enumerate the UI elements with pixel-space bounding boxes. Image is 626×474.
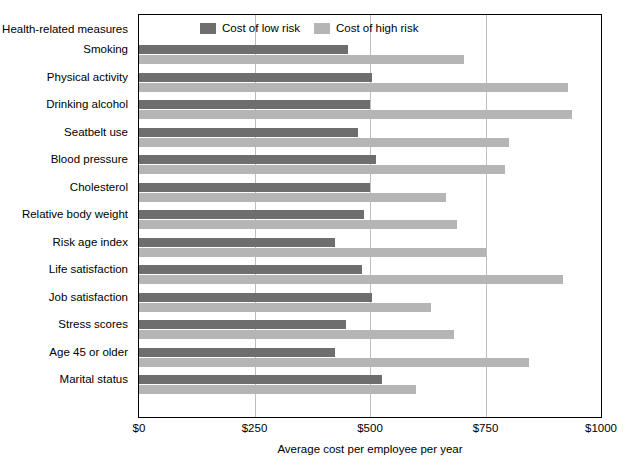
x-axis-title: Average cost per employee per year [138,443,602,455]
bar-group [139,208,601,234]
y-axis-category-label: Seatbelt use [64,126,128,138]
y-axis-category-label: Relative body weight [22,208,128,220]
bar-group [139,71,601,97]
x-axis-tick-label: $250 [242,422,268,434]
y-axis-category-label: Cholesterol [70,181,128,193]
bar-group [139,373,601,399]
x-axis-tick-label: $750 [473,422,499,434]
legend-swatch [200,23,216,34]
bar-high-risk [139,275,563,284]
bar-group [139,318,601,344]
y-axis-category-label: Physical activity [47,71,128,83]
bar-low-risk [139,183,370,192]
bar-low-risk [139,320,346,329]
y-axis-category-label: Drinking alcohol [46,98,128,110]
bar-group [139,153,601,179]
bar-group [139,236,601,262]
bar-low-risk [139,348,335,357]
y-axis-header-label: Health-related measures [0,22,134,36]
bar-group [139,346,601,372]
bar-high-risk [139,138,509,147]
bar-high-risk [139,220,457,229]
bar-group [139,126,601,152]
legend-entry: Cost of high risk [314,22,418,34]
bar-high-risk [139,165,505,174]
bar-high-risk [139,385,416,394]
chart-container: Health-related measures SmokingPhysical … [0,0,626,474]
y-axis-category-label: Life satisfaction [49,263,128,275]
y-axis-category-label: Age 45 or older [49,346,128,358]
bar-group [139,181,601,207]
bar-low-risk [139,128,358,137]
bar-high-risk [139,358,529,367]
bar-low-risk [139,210,364,219]
legend-entry: Cost of low risk [200,22,300,34]
legend-label: Cost of high risk [336,22,418,34]
bar-low-risk [139,73,372,82]
bar-high-risk [139,110,572,119]
bar-group [139,263,601,289]
bar-high-risk [139,83,568,92]
x-axis-tick-label: $0 [133,422,146,434]
y-axis-category-label: Stress scores [58,318,128,330]
bar-high-risk [139,303,431,312]
bar-low-risk [139,265,362,274]
y-axis-category-label: Marital status [60,373,128,385]
bar-high-risk [139,330,454,339]
bar-low-risk [139,293,372,302]
bar-low-risk [139,375,382,384]
bar-low-risk [139,238,335,247]
y-axis-category-label: Job satisfaction [49,291,128,303]
plot-area [138,14,602,418]
y-axis-category-label: Risk age index [53,236,128,248]
chart-legend: Cost of low riskCost of high risk [200,22,418,34]
x-axis-tick-label: $1000 [585,422,617,434]
bar-low-risk [139,100,370,109]
y-axis-category-label: Blood pressure [51,153,128,165]
bar-low-risk [139,45,348,54]
y-axis-category-label: Smoking [83,43,128,55]
legend-label: Cost of low risk [222,22,300,34]
bar-group [139,291,601,317]
bar-group [139,98,601,124]
bar-group [139,43,601,69]
x-axis-tick-label: $500 [357,422,383,434]
legend-swatch [314,23,330,34]
bar-high-risk [139,55,464,64]
bar-high-risk [139,248,486,257]
bar-low-risk [139,155,376,164]
bar-high-risk [139,193,446,202]
